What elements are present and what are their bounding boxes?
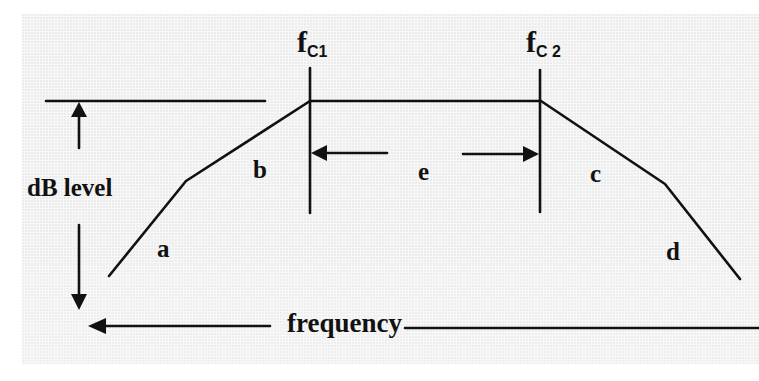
e-right-arrowhead-icon <box>523 146 539 162</box>
frequency-axis-label: frequency <box>287 310 402 337</box>
region-c-label: c <box>590 161 601 186</box>
db-up-arrowhead-icon <box>71 102 87 117</box>
frequency-left-arrowhead-icon <box>88 318 106 334</box>
e-left-arrowhead-icon <box>311 145 327 161</box>
fc1-label-main: f <box>297 25 307 58</box>
region-e-label: e <box>418 159 429 184</box>
response-curve <box>109 101 740 279</box>
region-a-label: a <box>157 236 170 261</box>
region-d-label: d <box>666 239 680 264</box>
db-down-arrowhead-icon <box>71 294 87 310</box>
diagram-canvas: fC1 fC 2 dB level a b e c d frequency <box>0 0 759 381</box>
fc2-label: fC 2 <box>526 27 561 57</box>
fc1-label-subscript: C1 <box>307 43 327 60</box>
db-level-label: dB level <box>27 175 112 200</box>
fc1-label: fC1 <box>297 27 327 57</box>
region-b-label: b <box>253 157 267 182</box>
fc2-label-subscript: C 2 <box>536 43 561 60</box>
fc2-label-main: f <box>526 25 536 58</box>
